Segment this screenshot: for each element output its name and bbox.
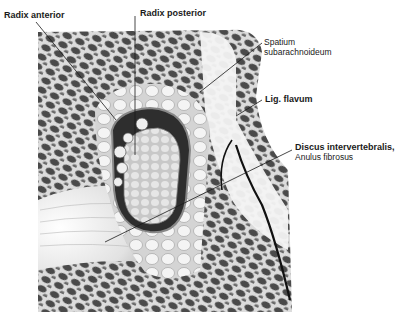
label-radix-posterior: Radix posterior — [140, 8, 206, 18]
anatomical-illustration: Radix anterior Radix posterior Spatium s… — [0, 0, 420, 319]
label-radix-anterior: Radix anterior — [4, 10, 65, 20]
label-discus-line1: Discus intervertebralis, — [295, 142, 395, 152]
label-spatium-subarachnoideum: Spatium subarachnoideum — [264, 37, 332, 57]
label-lig-flavum: Lig. flavum — [265, 94, 313, 104]
label-spatium-line2: subarachnoideum — [264, 47, 332, 57]
label-discus-line2: Anulus fibrosus — [295, 152, 395, 162]
label-discus-intervertebralis: Discus intervertebralis, Anulus fibrosus — [295, 142, 395, 162]
label-spatium-line1: Spatium — [264, 37, 332, 47]
